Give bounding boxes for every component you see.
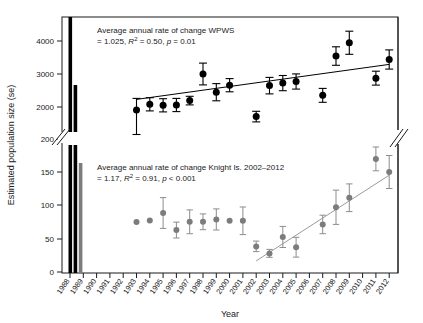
x-tick-1992: 1992 [108,277,125,296]
x-tick-1990: 1990 [81,277,98,296]
plot-frame [62,17,398,273]
x-axis-ticks [70,273,389,278]
x-tick-2000: 2000 [214,277,231,296]
knight-point-1993 [134,219,140,225]
x-tick-2005: 2005 [281,277,298,296]
x-tick-1994: 1994 [134,277,151,296]
y-axis-title: Estimated population size (se) [6,85,16,206]
x-tick-1989: 1989 [68,277,85,296]
x-tick-1998: 1998 [188,277,205,296]
x-tick-1996: 1996 [161,277,178,296]
knight-annotation-line1: Average annual rate of change Knight Is.… [97,163,285,172]
x-tick-1997: 1997 [174,277,191,296]
y-tick-4000: 4000 [36,37,54,46]
y-axis-lower-ticks: 200 150 100 50 0 [41,135,62,277]
x-tick-2010: 2010 [347,277,364,296]
wpws-annotation-line2: = 1.025, R2 = 0.50, p = 0.01 [97,36,196,46]
bar-1988-lower-black-cont [74,145,78,273]
x-tick-2004: 2004 [267,277,284,296]
x-tick-2003: 2003 [254,277,271,296]
wpws-annotation-line1: Average annual rate of change WPWS [97,26,234,35]
x-tick-2008: 2008 [321,277,338,296]
x-axis-title: Year [221,309,239,319]
bar-1989-gray [79,163,83,273]
x-tick-1991: 1991 [95,277,112,296]
x-tick-1988: 1988 [55,277,72,296]
x-tick-2012: 2012 [374,277,391,296]
y-tick-100: 100 [41,201,55,210]
x-tick-2007: 2007 [307,277,324,296]
knight-point-2000 [227,218,233,224]
y-tick-200: 200 [41,135,55,144]
y-tick-2000: 2000 [36,103,54,112]
knight-point-1994 [147,218,153,224]
x-tick-1995: 1995 [148,277,165,296]
knight-annotation-line2: = 1.17, R2 = 0.91, p < 0.001 [97,173,196,183]
x-tick-1999: 1999 [201,277,218,296]
y-tick-0: 0 [50,268,55,277]
bar-1988-upper-black-cont [69,145,73,273]
bar-1988-upper-black [69,17,73,134]
bar-1988-lower-black-top [74,85,78,134]
x-tick-2001: 2001 [228,277,245,296]
x-tick-2006: 2006 [294,277,311,296]
y-tick-3000: 3000 [36,70,54,79]
y-tick-50: 50 [45,235,54,244]
chart-svg: 4000 3000 2000 200 150 100 50 0 Estimate… [0,0,423,323]
y-tick-150: 150 [41,168,55,177]
y-axis-upper-ticks: 4000 3000 2000 [36,37,62,112]
x-tick-1993: 1993 [121,277,138,296]
x-tick-2009: 2009 [334,277,351,296]
figure-container: 4000 3000 2000 200 150 100 50 0 Estimate… [0,0,423,323]
x-axis-tick-labels: 1988 1989 1990 1991 1992 1993 1994 1995 … [55,277,391,296]
x-tick-2002: 2002 [241,277,258,296]
